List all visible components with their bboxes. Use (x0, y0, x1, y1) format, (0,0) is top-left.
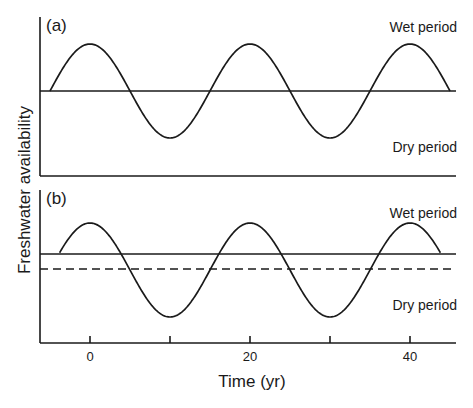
x-axis-ticks: 02040 (86, 336, 417, 364)
panel-a-label: (a) (46, 16, 67, 35)
x-tick-label: 20 (243, 349, 257, 364)
x-tick-label: 40 (403, 349, 417, 364)
panel-a-dry-period-label: Dry period (392, 139, 457, 155)
panel-a: (a) Wet period Dry period (40, 16, 457, 176)
panel-b-label: (b) (46, 189, 67, 208)
x-tick-label: 0 (86, 349, 93, 364)
y-axis-label: Freshwater availability (15, 105, 34, 274)
panel-b-availability-curve (60, 223, 441, 317)
panel-a-wet-period-label: Wet period (390, 19, 457, 35)
panel-b-wet-period-label: Wet period (390, 205, 457, 221)
figure: Freshwater availability (a) Wet period D… (0, 0, 473, 408)
panel-b-dry-period-label: Dry period (392, 297, 457, 313)
x-axis-label: Time (yr) (218, 372, 285, 391)
panel-b: (b) Wet period Dry period 02040 (40, 189, 457, 364)
